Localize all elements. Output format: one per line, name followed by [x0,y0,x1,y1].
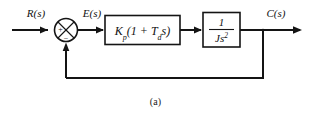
error-wire [78,27,105,34]
summing-junction-plus-sign: + [58,25,63,34]
feedback-arrowhead [63,43,70,52]
plant-input-arrowhead [194,27,202,34]
error-arrowhead [96,27,104,34]
summing-junction: + − [55,19,78,43]
block-diagram-figure: + − Kp(1 + Tds) 1 Js2 [0,0,311,117]
controller-block: Kp(1 + Tds) [105,16,180,45]
output-signal-label: C(s) [267,7,286,20]
output-wire [240,26,302,33]
error-signal-label: E(s) [82,7,102,20]
output-arrowhead [293,26,302,33]
input-arrowhead [40,27,48,34]
input-signal-label: R(s) [26,7,46,20]
input-wire [12,27,48,34]
plant-block: 1 Js2 [203,13,240,48]
summing-junction-minus-sign: − [64,34,69,43]
controller-close-paren: ) [165,24,170,38]
plant-denominator-exponent: 2 [224,31,228,40]
controller-to-plant-wire [180,27,202,34]
plant-denominator-base: Js [215,32,224,44]
plant-numerator: 1 [219,16,225,28]
figure-caption: (a) [0,96,311,107]
controller-open-paren: (1 + [127,24,151,38]
